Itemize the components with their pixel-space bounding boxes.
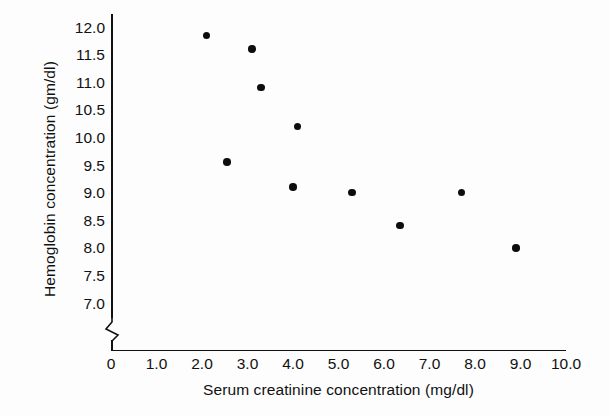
data-point	[289, 183, 297, 191]
y-tick-label: 9.0	[53, 185, 105, 201]
data-point	[396, 222, 404, 230]
y-tick-label: 11.5	[53, 47, 105, 63]
text-fragment: ·	[0, 257, 14, 272]
y-tick-label: 9.5	[53, 158, 105, 174]
x-tick-label: 2.0	[180, 356, 224, 372]
text-fragment: -	[0, 224, 14, 239]
y-tick-label: 8.0	[53, 240, 105, 256]
text-fragment: -	[0, 191, 14, 206]
text-fragment: )	[0, 389, 14, 404]
data-point	[458, 189, 466, 197]
text-fragment: a	[0, 323, 14, 338]
data-point	[512, 244, 520, 252]
text-fragment: ,	[0, 59, 14, 74]
x-tick-label: 9.0	[499, 356, 543, 372]
text-fragment: e	[0, 290, 14, 305]
x-tick-label: 10.0	[544, 356, 588, 372]
y-axis-tick-labels: 7.07.58.08.59.09.510.010.511.011.512.0	[50, 0, 105, 360]
adjacent-column-text-fragments: -,t,r--·eav)	[0, 0, 14, 416]
x-tick-label: 7.0	[408, 356, 452, 372]
x-tick-label: 1.0	[135, 356, 179, 372]
y-axis-line-upper	[111, 14, 113, 318]
y-tick-label: 8.5	[53, 213, 105, 229]
data-point	[294, 123, 302, 131]
y-tick-label: 12.0	[53, 20, 105, 36]
data-point	[203, 32, 211, 40]
text-fragment: ,	[0, 125, 14, 140]
x-tick-label: 6.0	[362, 356, 406, 372]
text-fragment: v	[0, 356, 14, 371]
data-point	[223, 158, 231, 166]
x-tick-label: 3.0	[226, 356, 270, 372]
x-axis-line	[111, 350, 566, 352]
y-axis-break-icon	[104, 314, 122, 344]
scatter-plot-figure: -,t,r--·eav) Hemoglobin concentration (g…	[0, 0, 609, 416]
data-point	[257, 84, 265, 92]
y-tick-label: 7.0	[53, 296, 105, 312]
text-fragment: t	[0, 92, 14, 107]
text-fragment: -	[0, 26, 14, 41]
text-fragment: r	[0, 158, 14, 173]
y-tick-label: 7.5	[53, 268, 105, 284]
data-point	[348, 189, 356, 197]
y-tick-label: 10.5	[53, 102, 105, 118]
y-tick-label: 11.0	[53, 75, 105, 91]
x-tick-label: 8.0	[453, 356, 497, 372]
x-tick-label: 4.0	[271, 356, 315, 372]
x-tick-label: 5.0	[317, 356, 361, 372]
data-point	[248, 45, 256, 53]
x-axis-title: Serum creatinine concentration (mg/dl)	[111, 381, 566, 399]
y-tick-label: 10.0	[53, 130, 105, 146]
